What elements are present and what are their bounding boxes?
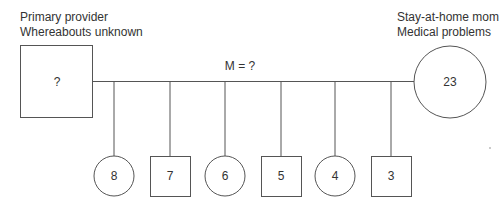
stray-dot (489, 147, 491, 149)
mother-age: 23 (443, 75, 457, 89)
father-label: ? (54, 75, 61, 89)
genogram-canvas: ? 23 M = ? 8 7 6 5 4 3 (0, 0, 503, 209)
child-6-age: 3 (388, 169, 395, 183)
marriage-label: M = ? (225, 59, 256, 73)
child-3-age: 6 (222, 169, 229, 183)
child-2-age: 7 (167, 169, 174, 183)
child-4-age: 5 (278, 169, 285, 183)
child-5-age: 4 (332, 169, 339, 183)
child-1-age: 8 (111, 169, 118, 183)
